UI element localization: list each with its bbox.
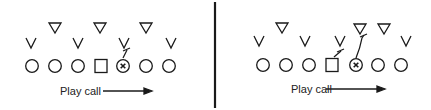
offense-player-circle-icon <box>72 60 85 73</box>
linebacker-triangle-icon <box>94 23 106 33</box>
center-square-icon <box>326 59 338 72</box>
linebacker-triangle-icon <box>378 24 390 34</box>
defensive-lineman-v-icon <box>119 38 129 48</box>
linebacker-triangle-icon <box>276 23 288 33</box>
arrow-right-icon <box>377 86 385 92</box>
offense-player-circle-icon <box>257 59 270 72</box>
offense-player-circle-icon <box>280 59 293 72</box>
offense-player-circle-icon <box>26 60 39 73</box>
offense-player-circle-icon <box>49 60 62 73</box>
defensive-lineman-v-icon <box>73 38 83 48</box>
offense-player-circle-icon <box>140 60 153 73</box>
offense-player-circle-icon <box>395 59 408 72</box>
center-square-icon <box>95 60 107 73</box>
linebacker-triangle-icon <box>49 23 61 33</box>
defensive-lineman-v-icon <box>26 38 36 48</box>
offense-player-circle-icon <box>163 60 176 73</box>
block-path-icon <box>356 35 364 58</box>
linebacker-triangle-icon <box>354 24 366 34</box>
defensive-lineman-v-icon <box>335 36 345 46</box>
play-call-label-right: Play call <box>291 84 332 95</box>
defensive-lineman-v-icon <box>300 36 310 46</box>
offense-player-circle-icon <box>372 59 385 72</box>
play-call-label-left: Play call <box>60 86 101 97</box>
defensive-lineman-v-icon <box>401 36 411 46</box>
linebacker-triangle-icon <box>140 23 152 33</box>
offense-player-circle-icon <box>303 59 316 72</box>
defensive-lineman-v-icon <box>166 38 176 48</box>
defensive-lineman-v-icon <box>254 36 264 46</box>
arrow-right-icon <box>144 88 152 94</box>
